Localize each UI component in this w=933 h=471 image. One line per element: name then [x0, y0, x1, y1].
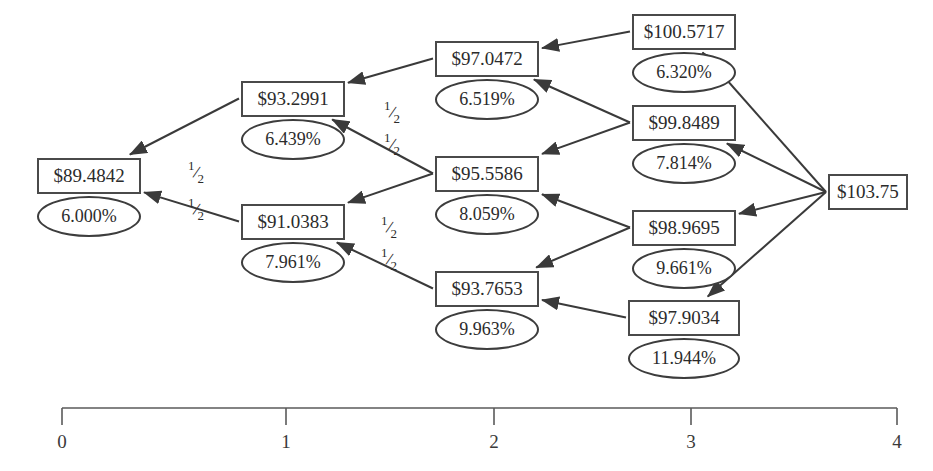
- node-rate-oval: 9.661%: [632, 248, 736, 289]
- node-rate-oval: 9.963%: [435, 309, 539, 350]
- fraction-denominator: 2: [394, 143, 401, 158]
- node-rate-oval: 6.000%: [37, 196, 141, 237]
- tree-node-n3b: $99.84897.814%: [632, 105, 736, 184]
- tree-node-n3c: $98.96959.661%: [632, 210, 736, 289]
- axis-tick-label-4: 4: [892, 432, 902, 451]
- node-price-box: $89.4842: [37, 158, 141, 194]
- tree-edge-n1a-to-n0a: [130, 99, 239, 155]
- node-price-box: $97.9034: [628, 300, 740, 336]
- node-rate-oval: 6.439%: [241, 119, 345, 160]
- node-rate-oval: 7.814%: [632, 143, 736, 184]
- axis-tick-label-3: 3: [686, 432, 696, 451]
- node-price-box: $93.7653: [435, 271, 539, 307]
- node-price-box: $98.9695: [632, 210, 736, 246]
- node-rate-oval: 7.961%: [241, 242, 345, 283]
- probability-label-p4: 1/2: [383, 132, 401, 156]
- tree-edge-n3b-to-n2a: [534, 80, 630, 123]
- fraction-denominator: 2: [391, 258, 398, 273]
- tree-node-n1a: $93.29916.439%: [241, 81, 345, 160]
- tree-node-n0a: $89.48426.000%: [37, 158, 141, 237]
- node-rate-oval: 6.320%: [632, 52, 736, 93]
- tree-edge-n4-to-n3b: [727, 144, 826, 193]
- tree-node-n2b: $95.55868.059%: [435, 156, 539, 235]
- node-rate-oval: 11.944%: [628, 338, 740, 379]
- tree-edge-n3d-to-n2c: [542, 300, 626, 318]
- node-price-box: $103.75: [828, 174, 908, 210]
- fraction-denominator: 2: [198, 171, 205, 186]
- probability-label-p3: 1/2: [383, 100, 401, 124]
- axis-tick-label-1: 1: [281, 432, 291, 451]
- probability-label-p2: 1/2: [187, 197, 205, 221]
- node-price-box: $95.5586: [435, 156, 539, 192]
- tree-node-n2c: $93.76539.963%: [435, 271, 539, 350]
- tree-edge-n3c-to-n2c: [536, 228, 630, 268]
- node-rate-oval: 6.519%: [435, 79, 539, 120]
- probability-label-p5: 1/2: [380, 215, 398, 239]
- tree-node-n3d: $97.903411.944%: [628, 300, 740, 379]
- tree-edge-n2a-to-n1a: [348, 59, 433, 83]
- node-price-box: $93.2991: [241, 81, 345, 117]
- tree-node-n4: $103.75: [828, 174, 908, 210]
- axis-tick-label-2: 2: [489, 432, 499, 451]
- tree-edge-n2b-to-n1b: [348, 174, 433, 203]
- node-rate-oval: 8.059%: [435, 194, 539, 235]
- probability-label-p6: 1/2: [380, 247, 398, 271]
- probability-label-p1: 1/2: [187, 160, 205, 184]
- tree-node-n3a: $100.57176.320%: [632, 14, 736, 93]
- tree-node-n1b: $91.03837.961%: [241, 204, 345, 283]
- tree-edge-n4-to-n3c: [739, 192, 826, 214]
- tree-edge-n3a-to-n2a: [542, 32, 630, 49]
- tree-node-n2a: $97.04726.519%: [435, 41, 539, 120]
- axis-tick-label-0: 0: [57, 432, 67, 451]
- fraction-denominator: 2: [198, 208, 205, 223]
- node-price-box: $100.5717: [632, 14, 736, 50]
- tree-edge-n3b-to-n2b: [542, 123, 630, 154]
- fraction-denominator: 2: [394, 111, 401, 126]
- timeline-axis: [62, 408, 897, 425]
- tree-edge-n3c-to-n2b: [542, 194, 630, 227]
- node-price-box: $91.0383: [241, 204, 345, 240]
- fraction-denominator: 2: [391, 226, 398, 241]
- node-price-box: $99.8489: [632, 105, 736, 141]
- node-price-box: $97.0472: [435, 41, 539, 77]
- binomial-tree-figure: $89.48426.000%$93.29916.439%$91.03837.96…: [0, 0, 933, 471]
